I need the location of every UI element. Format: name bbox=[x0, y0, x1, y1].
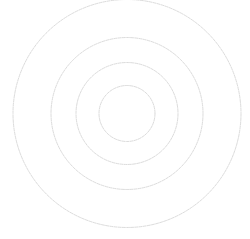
concentric-circles-canvas bbox=[0, 0, 250, 239]
ring-second bbox=[76, 63, 178, 165]
ring-inner bbox=[99, 86, 155, 142]
ring-outer bbox=[13, 0, 241, 228]
concentric-rings-graphic bbox=[0, 0, 250, 239]
ring-third bbox=[51, 38, 203, 190]
